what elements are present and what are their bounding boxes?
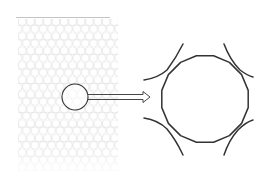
neighbor-arcs xyxy=(144,44,253,155)
magnifier-circle xyxy=(62,84,88,110)
neighbor-arc-bottom-left xyxy=(144,118,183,155)
neighbor-arc-bottom-right xyxy=(224,120,253,155)
neighbor-arc-top-left xyxy=(144,44,183,80)
enlarged-cell-polygon xyxy=(162,56,248,142)
diagram-canvas xyxy=(0,0,271,187)
